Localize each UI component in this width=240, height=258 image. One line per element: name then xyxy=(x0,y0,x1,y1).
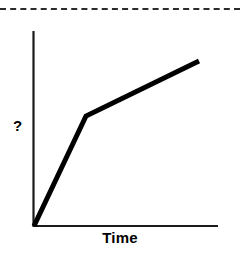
data-curve xyxy=(34,61,199,226)
plot-canvas xyxy=(0,20,240,258)
chart-figure: ? Time xyxy=(0,20,240,258)
dashed-divider-line xyxy=(0,8,240,10)
y-axis-label: ? xyxy=(13,118,22,133)
x-axis-label: Time xyxy=(0,230,240,245)
chart-screenshot: ? Time xyxy=(0,0,240,258)
